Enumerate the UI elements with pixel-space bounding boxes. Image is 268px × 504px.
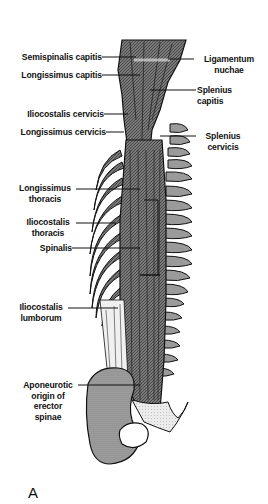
label-line: spinae	[18, 412, 78, 423]
label-iliocostalis-cervicis: Iliocostalis cervicis	[0, 109, 104, 120]
label-iliocostalis-thoracis: Iliocostalis thoracis	[20, 217, 76, 238]
panel-letter: A	[28, 484, 38, 501]
label-line: thoracis	[20, 228, 76, 239]
label-line: nuchae	[194, 65, 264, 76]
label-line: thoracis	[14, 194, 76, 205]
label-longissimus-capitis: Longissimus capitis	[0, 70, 102, 81]
label-longissimus-cervicis: Longissimus cervicis	[0, 127, 106, 138]
label-line: Splenius	[197, 85, 257, 96]
label-spinalis: Spinalis	[0, 243, 72, 254]
label-line: Longissimus	[14, 183, 76, 194]
label-line: Iliocostalis	[14, 302, 68, 313]
label-semispinalis-capitis: Semispinalis capitis	[0, 52, 102, 63]
label-line: lumborum	[14, 313, 68, 324]
label-line: Splenius	[194, 131, 252, 142]
label-line: Ligamentum	[194, 54, 264, 65]
label-line: Aponeurotic	[18, 380, 78, 391]
label-line: Iliocostalis	[20, 217, 76, 228]
label-iliocostalis-lumborum: Iliocostalis lumborum	[14, 302, 68, 323]
label-line: capitis	[197, 96, 257, 107]
label-ligamentum-nuchae: Ligamentum nuchae	[194, 54, 264, 75]
label-line: erector	[18, 401, 78, 412]
label-longissimus-thoracis: Longissimus thoracis	[14, 183, 76, 204]
label-aponeurotic-origin: Aponeurotic origin of erector spinae	[18, 380, 78, 422]
label-splenius-cervicis: Splenius cervicis	[194, 131, 252, 152]
label-line: cervicis	[194, 142, 252, 153]
label-splenius-capitis: Splenius capitis	[197, 85, 257, 106]
label-line: origin of	[18, 391, 78, 402]
